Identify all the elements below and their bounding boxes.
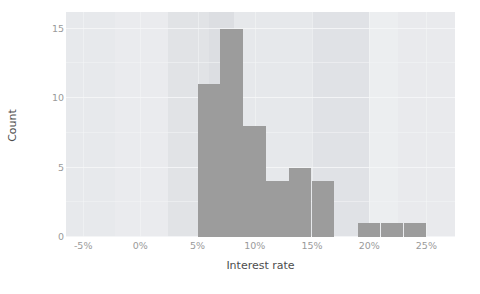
- y-tick-label: 5: [22, 163, 64, 173]
- x-axis-title: Interest rate: [66, 259, 455, 272]
- x-tick-label: 15%: [301, 241, 322, 251]
- histogram-bar: [220, 29, 242, 237]
- y-tick-label: 10: [22, 93, 64, 103]
- gridline-vertical: [369, 12, 370, 237]
- x-tick-label: 10%: [244, 241, 265, 251]
- x-tick-label: 5%: [190, 241, 205, 251]
- plot-panel: [66, 12, 455, 237]
- histogram-bar: [404, 223, 426, 237]
- background-band: [66, 12, 115, 237]
- x-tick-label: 25%: [416, 241, 437, 251]
- histogram-bar: [381, 223, 403, 237]
- histogram-bar: [289, 168, 311, 237]
- y-tick-label: 0: [22, 232, 64, 242]
- gridline-vertical: [140, 12, 141, 237]
- histogram-bar: [266, 181, 288, 237]
- gridline-horizontal: [66, 28, 455, 29]
- x-tick-label: -5%: [74, 241, 93, 251]
- x-tick-label: 0%: [133, 241, 148, 251]
- gridline-vertical: [83, 12, 84, 237]
- gridline-horizontal: [66, 97, 455, 98]
- background-band: [369, 12, 398, 237]
- x-axis-tick-labels: -5%0%5%10%15%20%25%: [66, 241, 455, 257]
- histogram-chart: Count 051015 -5%0%5%10%15%20%25% Interes…: [0, 0, 480, 294]
- gridline-vertical: [426, 12, 427, 237]
- y-tick-label: 15: [22, 24, 64, 34]
- x-axis-title-text: Interest rate: [226, 259, 294, 272]
- gridline-horizontal-minor: [66, 62, 455, 63]
- histogram-bar: [243, 126, 265, 237]
- histogram-bar: [312, 181, 334, 237]
- x-tick-label: 20%: [359, 241, 380, 251]
- background-band: [115, 12, 168, 237]
- histogram-bar: [198, 84, 220, 237]
- y-axis-tick-labels: 051015: [12, 0, 64, 294]
- histogram-bar: [358, 223, 380, 237]
